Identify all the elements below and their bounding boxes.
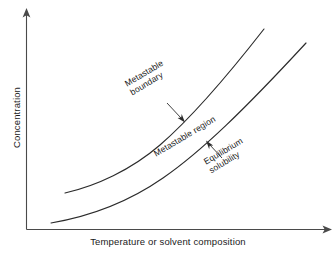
x-axis-label: Temperature or solvent composition bbox=[0, 236, 336, 247]
solubility-diagram-figure: Concentration Temperature or solvent com… bbox=[0, 0, 336, 256]
plot-canvas bbox=[0, 0, 336, 256]
pointer-metastable-boundary bbox=[167, 103, 185, 123]
x-axis bbox=[27, 226, 333, 234]
curve-metastable-boundary bbox=[65, 29, 264, 193]
y-axis bbox=[23, 8, 31, 230]
y-axis-label: Concentration bbox=[11, 58, 22, 178]
pointer-metastable-boundary-line bbox=[167, 103, 181, 118]
